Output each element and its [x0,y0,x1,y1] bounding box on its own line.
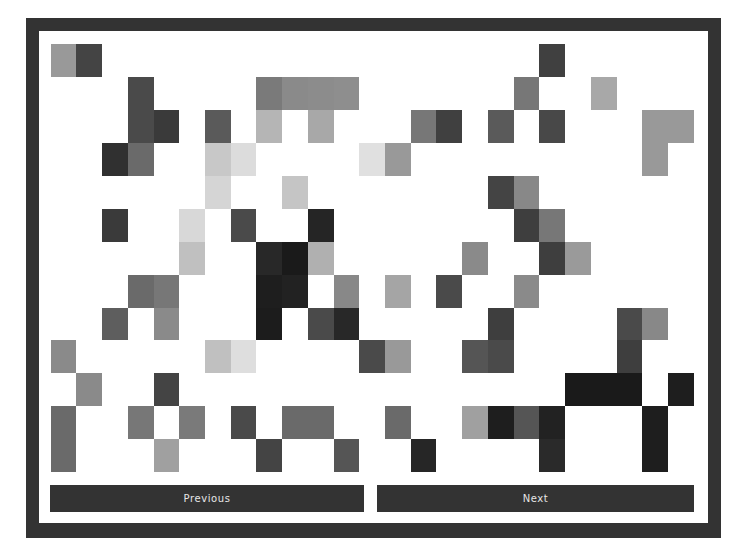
grid-cell-filled [154,308,180,341]
grid-cell-empty [668,275,694,308]
grid-cell-empty [128,176,154,209]
grid-cell-empty [668,439,694,472]
grid-cell-empty [334,242,360,275]
grid-cell-empty [128,44,154,77]
grid-cell-empty [231,275,257,308]
grid-cell-filled [462,340,488,373]
grid-cell-empty [591,242,617,275]
grid-cell-filled [591,373,617,406]
grid-cell-empty [565,110,591,143]
grid-cell-empty [385,242,411,275]
grid-cell-empty [334,373,360,406]
grid-cell-empty [617,406,643,439]
grid-cell-empty [514,143,540,176]
grid-cell-filled [51,406,77,439]
grid-cell-empty [282,143,308,176]
grid-cell-empty [591,176,617,209]
grid-cell-filled [565,373,591,406]
grid-cell-empty [359,176,385,209]
grid-cell-empty [154,176,180,209]
grid-cell-empty [617,275,643,308]
grid-cell-empty [668,209,694,242]
grid-cell-empty [565,77,591,110]
grid-cell-empty [76,308,102,341]
grid-cell-empty [231,110,257,143]
grid-cell-empty [411,143,437,176]
grid-cell-filled [539,242,565,275]
grid-cell-empty [488,143,514,176]
grid-cell-empty [488,373,514,406]
grid-cell-empty [385,209,411,242]
grid-cell-filled [128,143,154,176]
grid-cell-empty [102,242,128,275]
grid-cell-filled [102,209,128,242]
grid-cell-empty [51,176,77,209]
grid-cell-empty [102,176,128,209]
grid-cell-filled [256,242,282,275]
grid-cell-empty [256,406,282,439]
grid-cell-filled [231,340,257,373]
grid-cell-filled [642,406,668,439]
grid-cell-filled [514,275,540,308]
grid-cell-filled [642,143,668,176]
grid-cell-empty [436,308,462,341]
grid-cell-empty [514,439,540,472]
grid-cell-empty [102,406,128,439]
grid-cell-empty [514,110,540,143]
grid-cell-filled [436,275,462,308]
grid-cell-empty [359,209,385,242]
grid-cell-filled [205,340,231,373]
grid-cell-empty [231,308,257,341]
grid-cell-filled [514,209,540,242]
grid-cell-empty [334,143,360,176]
grid-cell-filled [308,209,334,242]
grid-cell-empty [205,439,231,472]
grid-cell-filled [334,439,360,472]
grid-cell-empty [514,44,540,77]
grid-cell-filled [385,275,411,308]
grid-cell-empty [565,406,591,439]
grid-cell-empty [256,209,282,242]
grid-cell-filled [51,44,77,77]
grid-cell-empty [668,143,694,176]
grid-cell-empty [76,110,102,143]
grid-cell-empty [51,110,77,143]
grid-cell-filled [462,242,488,275]
grid-cell-filled [256,275,282,308]
grid-cell-empty [488,209,514,242]
grid-cell-empty [334,406,360,439]
grid-cell-filled [514,77,540,110]
grid-cell-empty [51,209,77,242]
grid-cell-empty [359,110,385,143]
grid-cell-empty [205,373,231,406]
grid-cell-filled [642,308,668,341]
grid-cell-empty [514,340,540,373]
grid-cell-empty [334,340,360,373]
grid-cell-filled [51,340,77,373]
grid-cell-empty [668,44,694,77]
previous-button[interactable]: Previous [50,485,364,512]
grid-cell-empty [179,143,205,176]
grid-cell-empty [359,242,385,275]
next-button-label: Next [523,493,549,504]
grid-cell-filled [102,308,128,341]
grid-cell-empty [385,308,411,341]
grid-cell-empty [51,77,77,110]
grid-cell-filled [539,439,565,472]
grid-cell-empty [462,77,488,110]
grid-cell-empty [642,340,668,373]
grid-cell-empty [179,340,205,373]
grid-cell-filled [308,110,334,143]
grid-cell-filled [76,44,102,77]
grid-cell-filled [642,110,668,143]
grid-cell-empty [591,44,617,77]
grid-cell-empty [668,176,694,209]
grid-cell-empty [334,110,360,143]
next-button[interactable]: Next [377,485,694,512]
grid-cell-filled [256,439,282,472]
grid-cell-filled [385,143,411,176]
grid-cell-filled [231,209,257,242]
grid-cell-filled [539,209,565,242]
grid-cell-empty [668,77,694,110]
grid-cell-empty [539,176,565,209]
